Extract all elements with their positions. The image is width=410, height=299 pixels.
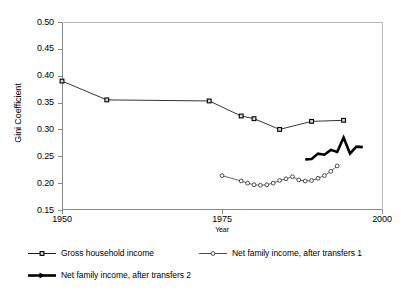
y-tick-mark xyxy=(58,76,62,77)
x-tick-label: 2000 xyxy=(357,215,407,224)
legend-entry-0[interactable]: Gross household income xyxy=(28,248,154,258)
x-tick-mark xyxy=(62,210,63,214)
legend-entry-2[interactable]: Net family income, after transfers 2 xyxy=(28,270,191,280)
legend-marker-icon xyxy=(28,271,56,280)
legend-marker-icon xyxy=(199,249,227,258)
plot-right-border xyxy=(382,22,383,210)
plot-area xyxy=(62,22,383,210)
y-tick-label: 0.20 xyxy=(14,179,54,188)
x-tick-label: 1975 xyxy=(197,215,247,224)
y-tick-label: 0.15 xyxy=(14,206,54,215)
y-tick-mark xyxy=(58,156,62,157)
gini-coefficient-chart: 0.150.200.250.300.350.400.450.50 1950197… xyxy=(0,0,410,299)
y-tick-mark xyxy=(58,183,62,184)
plot-top-border xyxy=(62,22,383,23)
legend-entry-1[interactable]: Net family income, after transfers 1 xyxy=(199,248,362,258)
legend-marker-icon xyxy=(28,249,56,258)
y-tick-label: 0.50 xyxy=(14,18,54,27)
y-tick-mark xyxy=(58,49,62,50)
y-tick-mark xyxy=(58,129,62,130)
x-tick-mark xyxy=(222,210,223,214)
legend-label: Gross household income xyxy=(61,248,154,258)
x-tick-mark xyxy=(382,210,383,214)
y-axis-title: Gini Coefficient xyxy=(13,68,23,158)
y-tick-mark xyxy=(58,103,62,104)
chart-legend: Gross household incomeNet family income,… xyxy=(0,248,410,296)
x-tick-label: 1950 xyxy=(37,215,87,224)
legend-label: Net family income, after transfers 2 xyxy=(61,270,191,280)
legend-label: Net family income, after transfers 1 xyxy=(232,248,362,258)
y-tick-mark xyxy=(58,22,62,23)
x-axis-title: Year xyxy=(197,226,247,233)
y-tick-label: 0.45 xyxy=(14,44,54,53)
